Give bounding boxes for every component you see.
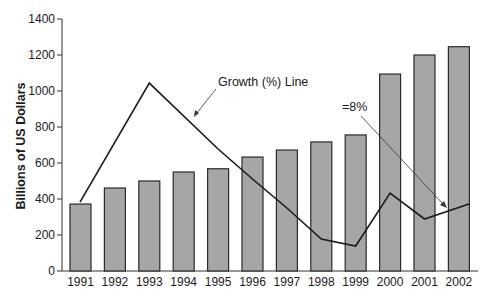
- x-tick-label: 2001: [411, 275, 438, 289]
- y-tick-label: 200: [35, 228, 55, 242]
- bar: [208, 169, 229, 271]
- x-tick-label: 1994: [170, 275, 197, 289]
- bar: [448, 47, 469, 271]
- y-tick-label: 800: [35, 120, 55, 134]
- y-tick-label: 1000: [28, 84, 55, 98]
- bar: [414, 55, 435, 271]
- y-tick-label: 1400: [28, 12, 55, 26]
- x-tick-label: 1993: [136, 275, 163, 289]
- y-tick-label: 1200: [28, 48, 55, 62]
- bar: [139, 181, 160, 271]
- y-tick-label: 0: [48, 264, 55, 278]
- bar: [311, 142, 332, 271]
- x-tick-label: 1998: [308, 275, 335, 289]
- x-tick-label: 2000: [377, 275, 404, 289]
- x-tick-label: 1995: [205, 275, 232, 289]
- x-tick-label: 1992: [102, 275, 129, 289]
- bar: [70, 204, 91, 271]
- growth-annotation-arrow: [196, 89, 216, 114]
- y-tick-label: 600: [35, 156, 55, 170]
- bar: [173, 172, 194, 271]
- growth-annotation-label: Growth (%) Line: [218, 75, 308, 89]
- x-tick-label: 1999: [342, 275, 369, 289]
- chart: 0200400600800100012001400 19911992199319…: [0, 0, 492, 304]
- x-axis: 1991199219931994199519961997199819992000…: [62, 271, 478, 289]
- growth-annotation: Growth (%) Line: [194, 75, 308, 117]
- y-tick-label: 400: [35, 192, 55, 206]
- x-tick-label: 1996: [239, 275, 266, 289]
- x-tick-label: 2002: [446, 275, 473, 289]
- x-tick-label: 1991: [67, 275, 94, 289]
- bar: [242, 157, 263, 271]
- y-axis: 0200400600800100012001400: [28, 12, 62, 278]
- bar: [380, 74, 401, 271]
- eight-percent-label: =8%: [342, 100, 367, 114]
- y-axis-title: Billions of US Dollars: [14, 82, 28, 209]
- bar: [276, 150, 297, 271]
- x-tick-label: 1997: [274, 275, 301, 289]
- bar: [345, 135, 366, 271]
- bar: [104, 188, 125, 271]
